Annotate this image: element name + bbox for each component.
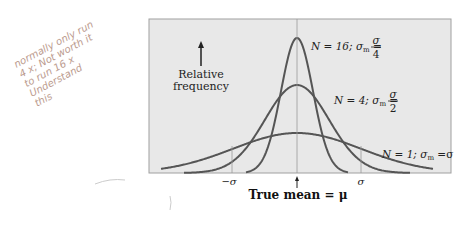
- pencil-mark: [170, 196, 171, 210]
- xlabel: True mean = μ: [249, 188, 348, 202]
- ylabel-line2: frequency: [173, 80, 230, 93]
- mean-arrow-icon: [295, 176, 299, 188]
- pencil-scribble: [95, 180, 125, 185]
- label-n1: N = 1; σm =σ: [381, 148, 453, 162]
- svg-text:2: 2: [390, 102, 397, 114]
- svg-text:4: 4: [373, 48, 380, 60]
- svg-text:σ: σ: [372, 34, 380, 46]
- svg-text:σ: σ: [389, 88, 397, 100]
- tick-minus-sigma: −σ: [221, 176, 237, 187]
- svg-text:N = 1; σm =σ: N = 1; σm =σ: [381, 148, 453, 162]
- tick-sigma: σ: [358, 176, 366, 187]
